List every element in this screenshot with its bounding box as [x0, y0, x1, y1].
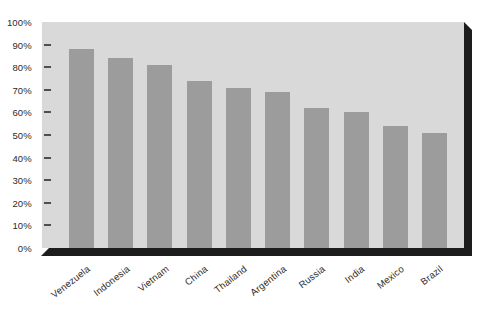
y-tick-label: 70%: [12, 84, 32, 95]
bar-brazil: [422, 133, 447, 248]
bar-indonesia: [108, 58, 133, 248]
y-axis-tick: [44, 157, 51, 159]
y-tick-label: 40%: [12, 152, 32, 163]
x-category-label: India: [343, 263, 367, 285]
y-tick-label: 100%: [7, 17, 32, 28]
y-tick-label: 50%: [12, 130, 32, 141]
bar-argentina: [265, 92, 290, 248]
plot-area: [42, 22, 464, 248]
bar-mexico: [383, 126, 408, 248]
y-tick-label: 60%: [12, 107, 32, 118]
bar-vietnam: [147, 65, 172, 248]
y-tick-label: 10%: [12, 220, 32, 231]
y-tick-label: 30%: [12, 175, 32, 186]
y-axis-tick: [44, 179, 51, 181]
x-category-label: Venezuela: [49, 263, 92, 300]
bar-russia: [304, 108, 329, 248]
y-axis-tick: [44, 224, 51, 226]
bars-container: [42, 22, 464, 248]
bar-india: [344, 112, 369, 248]
y-tick-label: 0%: [18, 243, 32, 254]
y-tick-label: 20%: [12, 197, 32, 208]
y-axis: 100%90%80%70%60%50%40%30%20%10%0%: [0, 22, 37, 248]
shadow-right-edge: [464, 22, 472, 256]
y-axis-tick: [44, 111, 51, 113]
bar-venezuela: [69, 49, 94, 248]
x-category-label: China: [183, 263, 210, 288]
x-category-label: Argentina: [248, 263, 288, 298]
x-category-label: Brazil: [418, 263, 444, 287]
x-category-label: Mexico: [374, 263, 405, 291]
x-category-label: Vietnam: [135, 263, 170, 294]
bar-china: [187, 81, 212, 248]
y-tick-label: 80%: [12, 62, 32, 73]
x-category-label: Indonesia: [91, 263, 132, 298]
x-category-label: Russia: [297, 263, 328, 290]
x-axis: VenezuelaIndonesiaVietnamChinaThailandAr…: [42, 250, 464, 312]
y-axis-tick: [44, 202, 51, 204]
y-axis-tick: [44, 44, 51, 46]
x-category-label: Thailand: [212, 263, 249, 295]
y-axis-tick: [44, 134, 51, 136]
y-axis-tick: [44, 89, 51, 91]
bar-chart: 100%90%80%70%60%50%40%30%20%10%0% Venezu…: [0, 0, 485, 312]
y-tick-label: 90%: [12, 39, 32, 50]
y-axis-tick: [44, 66, 51, 68]
bar-thailand: [226, 88, 251, 248]
